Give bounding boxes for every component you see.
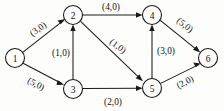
edge-label-3-to-5: (2,0) [104, 97, 122, 108]
edge-line [81, 21, 142, 79]
node-4[interactable]: 4 [143, 6, 162, 25]
graph-canvas: (3,0) (5,0) (1,0) (4,0) (1,0) (2,0) (3,0… [0, 0, 224, 111]
edge-label-layer: (3,0) (5,0) (1,0) (4,0) (1,0) (2,0) (3,0… [25, 2, 195, 108]
edge-label-1-to-2: (3,0) [28, 20, 49, 39]
edge-label-5-to-6: (2,0) [175, 73, 196, 91]
arrowhead-icon [136, 86, 143, 91]
node-label: 1 [13, 54, 18, 64]
edge-label-2-to-4: (4,0) [102, 2, 120, 13]
edge-2-to-4 [83, 12, 143, 17]
edge-label-3-to-2: (1,0) [52, 48, 70, 59]
node-3[interactable]: 3 [64, 80, 83, 99]
network-flow-diagram: (3,0) (5,0) (1,0) (4,0) (1,0) (2,0) (3,0… [0, 0, 224, 111]
arrowhead-icon [193, 46, 200, 53]
arrowhead-icon [57, 80, 65, 85]
node-2[interactable]: 2 [64, 6, 83, 25]
edge-label-5-to-4: (3,0) [157, 46, 175, 57]
node-label: 3 [71, 85, 76, 95]
node-6[interactable]: 6 [199, 49, 218, 68]
arrowhead-icon [70, 25, 75, 32]
node-5[interactable]: 5 [143, 79, 162, 98]
edge-label-4-to-6: (5,0) [174, 16, 195, 36]
edge-3-to-5 [83, 86, 143, 91]
edge-2-to-5 [81, 21, 143, 81]
edge-label-1-to-3: (5,0) [25, 75, 46, 93]
arrowhead-icon [136, 12, 143, 17]
node-1[interactable]: 1 [6, 49, 25, 68]
edge-label-2-to-5: (1,0) [107, 37, 128, 57]
node-label: 6 [206, 54, 211, 64]
node-label: 5 [150, 84, 155, 94]
edge-5-to-4 [149, 25, 154, 79]
arrowhead-icon [149, 25, 154, 32]
node-label: 2 [71, 11, 76, 21]
node-label: 4 [150, 11, 155, 21]
edge-3-to-2 [70, 25, 75, 80]
